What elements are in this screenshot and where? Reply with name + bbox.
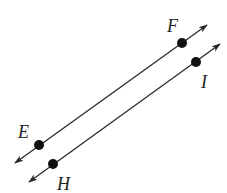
point-e	[34, 140, 44, 150]
label-e: E	[17, 122, 29, 142]
point-h	[48, 159, 58, 169]
point-f	[177, 38, 187, 48]
parallel-lines-diagram: E F H I	[0, 0, 227, 193]
point-i	[191, 57, 201, 67]
label-i: I	[200, 72, 208, 92]
label-h: H	[56, 174, 71, 193]
line-hi	[29, 44, 220, 182]
label-f: F	[166, 16, 179, 36]
